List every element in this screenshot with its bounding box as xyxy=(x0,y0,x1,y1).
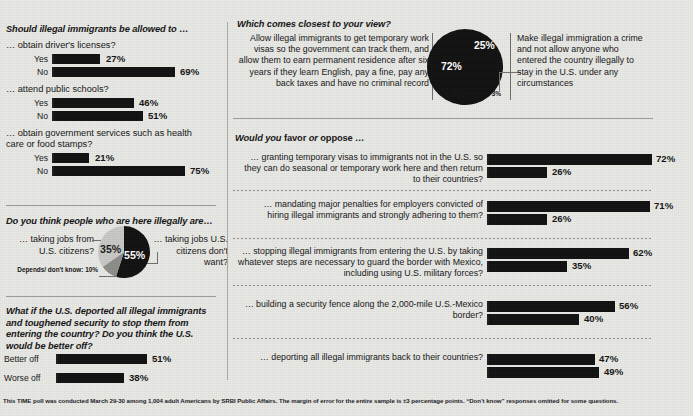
bar-fill-favor xyxy=(487,248,629,259)
heading-part-3: … xyxy=(353,133,365,143)
bar-fill xyxy=(52,67,175,77)
bar-row-no: No 75% xyxy=(0,165,228,178)
heading-part-1: Would you xyxy=(235,133,284,143)
left-column: Should illegal immigrants be allowed to … xyxy=(0,0,228,416)
item-divider xyxy=(233,338,653,339)
bar-fill xyxy=(56,373,124,383)
bar-fill xyxy=(56,354,147,364)
pie-other-label: Depends/ don't know: 10% xyxy=(14,266,98,273)
bar-fill xyxy=(52,98,134,108)
bar-value: 51% xyxy=(148,110,167,121)
bar-value-favor: 71% xyxy=(654,200,673,211)
question-heading-deported-better-off: What if the U.S. deported all illegal im… xyxy=(6,306,220,352)
bar-fill-oppose xyxy=(487,214,547,225)
bar-fill-favor xyxy=(487,354,595,365)
bar-fill-oppose xyxy=(487,167,547,178)
section-divider xyxy=(6,296,216,297)
bar-fill xyxy=(52,153,89,163)
subquestion-drivers-licenses: … obtain driver's licenses? xyxy=(6,40,222,51)
bar-row-better-off: Better off 51% xyxy=(0,353,228,366)
bar-row-oppose-2: 26% xyxy=(229,213,693,226)
section-divider xyxy=(6,205,216,206)
section-divider xyxy=(233,118,653,119)
bar-fill xyxy=(52,166,185,176)
subquestion-public-schools: … attend public schools? xyxy=(6,84,222,95)
bar-value-favor: 62% xyxy=(633,247,652,258)
bar-value-oppose: 26% xyxy=(552,213,571,224)
pie-label-left: … taking jobs from U.S. citizens? xyxy=(2,234,94,257)
bar-value-oppose: 40% xyxy=(584,313,603,324)
bar-row-favor-4: 56% xyxy=(229,300,693,313)
bar-row-favor-5: 47% xyxy=(229,353,693,366)
bar-label: Yes xyxy=(34,54,48,64)
bar-row-no: No 69% xyxy=(0,66,228,79)
bar-fill-oppose xyxy=(487,261,567,272)
bar-value-favor: 47% xyxy=(599,353,618,364)
bar-value-favor: 56% xyxy=(619,300,638,311)
bar-value: 38% xyxy=(129,372,148,383)
bar-label: No xyxy=(37,166,48,176)
bar-value-oppose: 49% xyxy=(604,366,623,377)
bar-fill xyxy=(52,111,143,121)
bar-value-oppose: 26% xyxy=(552,166,571,177)
bar-fill-favor xyxy=(487,301,615,312)
bar-row-yes: Yes 21% xyxy=(0,152,228,165)
bar-value: 21% xyxy=(95,152,114,163)
bar-value: 69% xyxy=(180,66,199,77)
heading-part-2: or xyxy=(306,133,320,143)
bar-value-oppose: 35% xyxy=(572,260,591,271)
leader-line-depends xyxy=(99,276,117,277)
bar-row-yes: Yes 46% xyxy=(0,97,228,110)
question-heading-favor-oppose: Would you favor or oppose … xyxy=(235,133,535,145)
bar-fill-oppose xyxy=(487,314,579,325)
subquestion-government-services: … obtain government services such as hea… xyxy=(6,128,206,151)
bracket-right xyxy=(510,33,511,100)
leader-line-right-vert xyxy=(157,252,158,264)
heading-favor: favor xyxy=(284,133,306,143)
bar-row-favor-2: 71% xyxy=(229,200,693,213)
bar-fill xyxy=(52,54,100,64)
bar-value: 27% xyxy=(106,53,125,64)
bar-fill-favor xyxy=(487,154,652,165)
heading-oppose: oppose xyxy=(320,133,352,143)
pie-value-72: 72% xyxy=(441,61,462,72)
pie-label-right: … taking jobs U.S. citizens don't want? xyxy=(152,234,228,269)
bar-label: Yes xyxy=(34,98,48,108)
bar-label: Worse off xyxy=(4,373,53,383)
bar-row-worse-off: Worse off 38% xyxy=(0,372,228,385)
bar-value-favor: 72% xyxy=(656,153,675,164)
column-divider xyxy=(227,22,228,380)
bar-row-yes: Yes 27% xyxy=(0,53,228,66)
bar-row-favor-3: 62% xyxy=(229,247,693,260)
bar-row-oppose-3: 35% xyxy=(229,260,693,273)
bar-fill-oppose xyxy=(487,367,599,378)
bar-fill-favor xyxy=(487,201,650,212)
pie-dont-know-label: Don't know: 3% xyxy=(447,90,501,97)
bar-label: No xyxy=(37,67,48,77)
item-divider xyxy=(233,285,653,286)
bar-label: Yes xyxy=(34,153,48,163)
bar-value: 46% xyxy=(139,97,158,108)
bar-value: 75% xyxy=(190,165,209,176)
leader-line-dk-vert xyxy=(499,73,500,91)
bar-value: 51% xyxy=(152,353,171,364)
question-heading-allowed-to: Should illegal immigrants be allowed to … xyxy=(6,24,222,36)
item-divider xyxy=(233,190,653,191)
pie-value-55: 55% xyxy=(124,249,145,261)
infographic-page: Should illegal immigrants be allowed to … xyxy=(0,0,693,416)
item-divider xyxy=(233,238,653,239)
pie-description-right: Make illegal immigration a crime and not… xyxy=(517,33,647,89)
bar-row-favor-1: 72% xyxy=(229,153,693,166)
pie-description-left: Allow illegal immigrants to get temporar… xyxy=(233,33,429,89)
bar-row-oppose-5: 49% xyxy=(229,366,693,379)
bar-label: No xyxy=(37,111,48,121)
right-column: Which comes closest to your view? Allow … xyxy=(229,0,693,416)
footnote: This TIME poll was conducted March 29-30… xyxy=(3,397,691,405)
bar-label: Better off xyxy=(4,354,53,364)
bar-row-oppose-1: 26% xyxy=(229,166,693,179)
pie-value-35: 35% xyxy=(100,243,121,255)
bar-row-no: No 51% xyxy=(0,110,228,123)
bar-row-oppose-4: 40% xyxy=(229,313,693,326)
pie-value-25: 25% xyxy=(474,40,495,51)
